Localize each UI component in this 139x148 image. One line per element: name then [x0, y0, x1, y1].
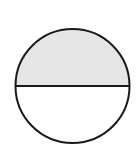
shaded-upper-half [16, 29, 130, 86]
unshaded-lower-half [16, 86, 130, 143]
divided-circle-diagram [0, 0, 139, 148]
